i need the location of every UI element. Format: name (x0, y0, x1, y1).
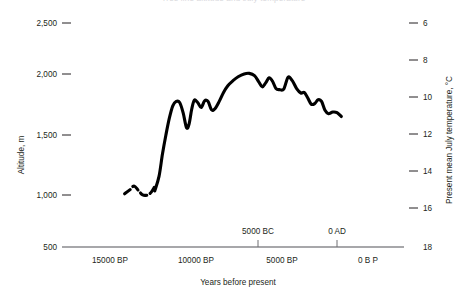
y-tick-label-1500: 1,500 (37, 131, 58, 140)
series-line-uncertain (125, 186, 155, 195)
y2-tick-label-10: 10 (423, 93, 433, 102)
y-tick-label-2500: 2,500 (37, 19, 58, 28)
y-tick-label-1000: 1,000 (37, 191, 58, 200)
y2-tick-label-12: 12 (423, 130, 433, 139)
x-axis-era-ticks (258, 240, 337, 247)
x-axis-era-labels: 5000 BC 0 AD (242, 227, 346, 236)
y2-tick-label-16: 16 (423, 204, 433, 213)
x-tick-label-5000bp: 5000 BP (266, 256, 298, 265)
x-tick-label-10000bp: 10000 BP (178, 256, 215, 265)
series-line-tree-line-altitude (155, 73, 342, 191)
y-tick-label-500: 500 (43, 243, 57, 252)
chart-plot-area: 2,500 2,000 1,500 1,000 500 Altitude, m … (0, 0, 467, 300)
y-tick-label-2000: 2,000 (37, 70, 58, 79)
chart-figure: Tree line altitude and July temperature … (0, 0, 467, 300)
y2-tick-label-18: 18 (423, 243, 433, 252)
y-axis-labels-left: 2,500 2,000 1,500 1,000 500 (37, 19, 58, 252)
y-axis-ticks-right (409, 23, 418, 208)
x-tick-label-15000bp: 15000 BP (92, 256, 129, 265)
y2-tick-label-8: 8 (423, 56, 428, 65)
y-axis-title-left: Altitude, m (17, 135, 26, 174)
y-axis-title-right: Present mean July temperature, °C (445, 76, 454, 204)
y-axis-ticks-left (62, 23, 71, 195)
y2-tick-label-6: 6 (423, 19, 428, 28)
x-tick-label-0bp: 0 B P (358, 256, 379, 265)
era-label-0ad: 0 AD (328, 227, 346, 236)
x-axis-title: Years before present (200, 278, 276, 287)
y-axis-labels-right: 6 8 10 12 14 16 18 (423, 19, 433, 252)
y2-tick-label-14: 14 (423, 167, 433, 176)
x-axis-labels: 15000 BP 10000 BP 5000 BP 0 B P (92, 256, 379, 265)
era-label-5000bc: 5000 BC (242, 227, 274, 236)
